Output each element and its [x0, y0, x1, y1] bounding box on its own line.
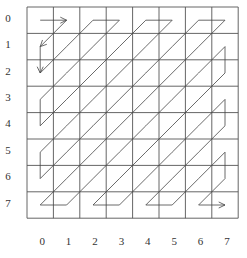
column-label: 2	[92, 235, 98, 247]
column-label: 3	[119, 235, 125, 247]
row-label: 3	[5, 91, 11, 103]
row-label: 4	[5, 117, 11, 129]
column-label: 5	[171, 235, 177, 247]
zigzag-scan-diagram: 01234567 01234567	[0, 0, 247, 258]
row-label: 5	[5, 144, 11, 156]
row-label: 2	[5, 65, 11, 77]
row-label: 6	[5, 170, 11, 182]
column-label: 7	[224, 235, 230, 247]
row-labels: 01234567	[5, 12, 11, 209]
column-label: 0	[39, 235, 45, 247]
column-labels: 01234567	[39, 235, 230, 247]
row-label: 7	[5, 197, 11, 209]
row-label: 0	[5, 12, 11, 24]
column-label: 1	[66, 235, 72, 247]
column-label: 4	[145, 235, 151, 247]
column-label: 6	[198, 235, 204, 247]
row-label: 1	[5, 38, 11, 50]
